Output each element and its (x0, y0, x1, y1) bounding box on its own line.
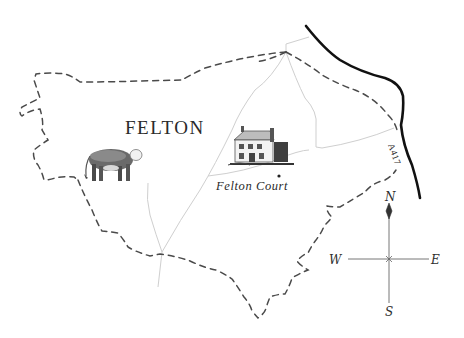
parish-boundary (20, 52, 397, 318)
compass-east: E (430, 253, 440, 267)
felton-court-marker (277, 174, 280, 177)
place-label-felton-court: Felton Court (215, 179, 288, 193)
village-map: A417 FELTON Felton Court (0, 0, 464, 338)
village-title: FELTON (125, 117, 205, 138)
main-road-a417: A417 (306, 26, 420, 198)
compass-south: S (385, 305, 393, 319)
felton-court-house-illustration (228, 126, 294, 165)
north-arrow-icon (386, 203, 392, 219)
compass-rose: N S W E (329, 190, 440, 319)
compass-north: N (384, 190, 396, 204)
road-label-a417: A417 (386, 142, 403, 166)
hereford-bull-illustration (84, 149, 142, 181)
compass-west: W (329, 253, 343, 267)
